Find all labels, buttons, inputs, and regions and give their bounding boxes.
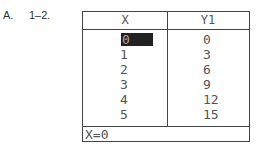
cell-x-1[interactable]: 1 [120,47,128,62]
cell-y-4[interactable]: 12 [203,92,219,107]
cell-y-3[interactable]: 9 [203,77,211,92]
column-divider [167,12,168,126]
cell-y-2[interactable]: 6 [203,62,211,77]
cell-y-0[interactable]: 0 [203,32,211,47]
problem-letter: A. [3,9,13,21]
problem-number: 1–2. [29,9,50,21]
cell-y-1[interactable]: 3 [203,47,211,62]
cell-y-5[interactable]: 15 [203,107,219,122]
table-footer: X=0 [83,126,249,143]
footer-status: X=0 [85,127,108,143]
header-x: X [83,13,167,28]
header-y1: Y1 [167,13,249,28]
cell-x-4[interactable]: 4 [120,92,128,107]
cell-x-3[interactable]: 3 [120,77,128,92]
cell-x-2[interactable]: 2 [120,62,128,77]
calculator-table: X Y1 0 0 1 3 2 6 3 9 4 12 5 15 X=0 [82,11,250,142]
cell-x-0[interactable]: 0 [122,32,130,47]
selected-cell-highlight[interactable]: 0 [121,33,153,46]
table-header: X Y1 [83,12,249,30]
cell-x-5[interactable]: 5 [120,107,128,122]
